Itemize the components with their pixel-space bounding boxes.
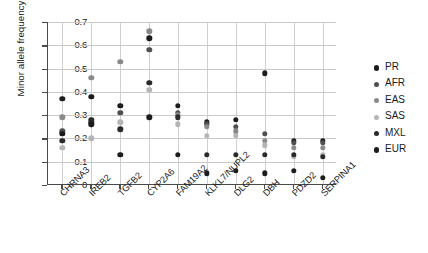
- legend-marker-icon: [374, 65, 379, 70]
- data-point: [146, 80, 151, 85]
- legend-marker-icon: [374, 98, 379, 103]
- gridline-x: [91, 22, 92, 184]
- data-point: [320, 145, 325, 150]
- gridline-x: [62, 22, 63, 184]
- chart-figure: Minor allele frequency 0.70.60.50.40.30.…: [0, 0, 428, 253]
- data-point: [60, 145, 65, 150]
- data-point: [146, 36, 151, 41]
- gridline-x: [323, 22, 324, 184]
- data-point: [262, 131, 267, 136]
- data-point: [291, 168, 296, 173]
- legend-item-label: SAS: [385, 109, 405, 123]
- legend-item-label: PR: [385, 60, 399, 74]
- data-point: [146, 29, 151, 34]
- data-point: [89, 122, 94, 127]
- legend-item-label: MXL: [385, 126, 406, 140]
- data-point: [89, 136, 94, 141]
- gridline-x: [265, 22, 266, 184]
- legend-marker-icon: [374, 82, 379, 87]
- data-point: [118, 103, 123, 108]
- data-point: [118, 152, 123, 157]
- data-point: [60, 96, 65, 101]
- data-point: [291, 145, 296, 150]
- data-point: [262, 71, 267, 76]
- data-point: [118, 59, 123, 64]
- legend-marker-icon: [374, 147, 379, 152]
- data-point: [204, 152, 209, 157]
- data-point: [60, 115, 65, 120]
- y-axis-title: Minor allele frequency: [15, 0, 26, 115]
- gridline-x: [207, 22, 208, 184]
- data-point: [204, 124, 209, 129]
- data-point: [233, 117, 238, 122]
- data-point: [262, 143, 267, 148]
- legend-marker-icon: [374, 131, 379, 136]
- data-point: [175, 152, 180, 157]
- legend-item-label: AFR: [385, 76, 405, 90]
- data-point: [118, 119, 123, 124]
- data-point: [262, 171, 267, 176]
- legend-item-label: EAS: [385, 93, 405, 107]
- plot-area: [47, 22, 336, 185]
- legend-marker-icon: [374, 115, 379, 120]
- data-point: [175, 103, 180, 108]
- data-point: [175, 115, 180, 120]
- data-point: [320, 175, 325, 180]
- data-point: [60, 138, 65, 143]
- legend-item-label: EUR: [385, 142, 406, 156]
- data-point: [118, 126, 123, 131]
- y-axis-tick-mark: [42, 185, 47, 186]
- data-point: [320, 154, 325, 159]
- data-point: [89, 94, 94, 99]
- data-point: [60, 131, 65, 136]
- gridline-x: [294, 22, 295, 184]
- data-point: [146, 47, 151, 52]
- data-point: [146, 115, 151, 120]
- data-point: [175, 122, 180, 127]
- data-point: [89, 75, 94, 80]
- data-point: [262, 152, 267, 157]
